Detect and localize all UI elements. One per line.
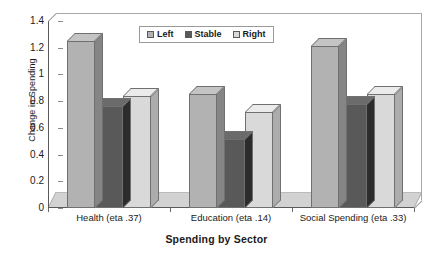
bar-side-face bbox=[217, 86, 225, 208]
legend-swatch-icon bbox=[185, 31, 192, 38]
legend-label: Stable bbox=[195, 30, 222, 39]
bar-front-face bbox=[311, 46, 339, 208]
bar-chart: 00.20.40.60.811.21.4 Health (eta .37)Edu… bbox=[0, 0, 433, 261]
bar-left-0 bbox=[67, 41, 95, 208]
bar-side-face bbox=[339, 38, 347, 208]
bar-left-2 bbox=[311, 46, 339, 208]
x-tick-label: Social Spending (eta .33) bbox=[263, 212, 433, 223]
legend-item-left: Left bbox=[147, 30, 174, 39]
bar-side-face bbox=[95, 33, 103, 208]
bar-front-face bbox=[67, 41, 95, 208]
chart-legend: LeftStableRight bbox=[139, 26, 274, 43]
y-axis-title: Change in Spending bbox=[27, 20, 37, 180]
legend-swatch-icon bbox=[147, 31, 154, 38]
x-tick-mark bbox=[292, 208, 293, 212]
bar-side-face bbox=[245, 131, 253, 208]
x-tick-mark bbox=[48, 208, 49, 212]
legend-label: Left bbox=[157, 30, 174, 39]
legend-item-stable: Stable bbox=[185, 30, 222, 39]
x-tick-mark bbox=[170, 208, 171, 212]
legend-swatch-icon bbox=[233, 31, 240, 38]
bar-side-face bbox=[123, 98, 131, 208]
bar-left-1 bbox=[189, 94, 217, 208]
legend-item-right: Right bbox=[233, 30, 266, 39]
bar-side-face bbox=[395, 86, 403, 208]
x-tick-mark bbox=[414, 208, 415, 212]
bar-side-face bbox=[151, 88, 159, 208]
legend-label: Right bbox=[243, 30, 266, 39]
x-axis-title: Spending by Sector bbox=[0, 233, 433, 245]
bar-side-face bbox=[273, 104, 281, 208]
bar-front-face bbox=[189, 94, 217, 208]
bar-side-face bbox=[367, 96, 375, 208]
